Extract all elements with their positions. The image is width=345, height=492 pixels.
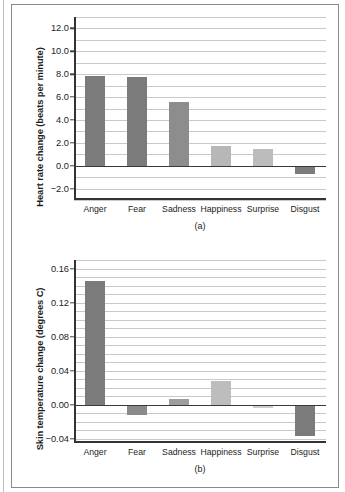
figure-container: Heart rate change (beats per minute) −2.… [11,4,339,488]
bar-happiness [211,381,231,405]
panel-caption-b: (b) [74,464,326,474]
y-axis-title-a: Heart rate change (beats per minute) [34,37,45,217]
bar-surprise [253,149,273,166]
y-axis-title-b: Skin temperature change (degrees C) [34,279,45,459]
x-tick-label: Fear [128,447,146,457]
x-tick-label: Sadness [162,447,196,457]
panel-caption-a: (a) [74,221,326,231]
x-tick-label: Fear [128,204,146,214]
bar-happiness [211,146,231,166]
bar-fear [127,77,147,166]
x-tick-label: Surprise [247,447,279,457]
plot-area-b: −0.040.000.040.080.120.16 [74,260,326,443]
page-margin-rule [3,0,4,492]
x-axis-labels-a: AngerFearSadnessHappinessSurpriseDisgust [12,204,340,218]
x-tick-label: Anger [83,204,106,214]
zero-baseline [74,405,326,407]
x-tick-label: Happiness [200,447,241,457]
bar-anger [85,76,105,165]
x-axis-labels-b: AngerFearSadnessHappinessSurpriseDisgust [12,447,340,461]
zero-baseline [74,166,326,168]
bar-series-b [74,260,326,443]
plot-area-a: −2.00.02.04.06.08.010.012.0 [74,17,326,200]
x-tick-label: Disgust [291,204,320,214]
x-tick-label: Happiness [200,204,241,214]
bar-series-a [74,17,326,200]
chart-panel-a: Heart rate change (beats per minute) −2.… [12,5,340,248]
bar-anger [85,281,105,404]
x-tick-label: Surprise [247,204,279,214]
x-tick-label: Disgust [291,447,320,457]
chart-panel-b: Skin temperature change (degrees C) −0.0… [12,248,340,489]
x-tick-label: Sadness [162,204,196,214]
bar-sadness [169,102,189,165]
bar-disgust [295,405,315,436]
x-tick-label: Anger [83,447,106,457]
gridline [74,200,326,201]
